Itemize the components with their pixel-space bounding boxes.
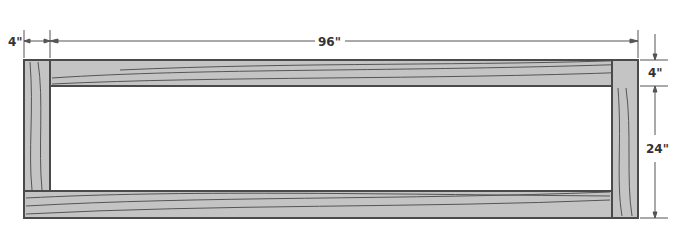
overall-width-label: 96": [318, 35, 341, 49]
bottom-rail: [24, 191, 612, 218]
post-width-label: 4": [8, 35, 23, 49]
rail-height-label: 4": [648, 66, 663, 80]
top-rail: [50, 60, 638, 86]
right-post: [612, 60, 638, 218]
opening-height-label: 24": [646, 142, 669, 156]
frame-diagram: 4" 96" 4" 24": [0, 0, 687, 234]
dimension-lines-right: [640, 34, 668, 218]
